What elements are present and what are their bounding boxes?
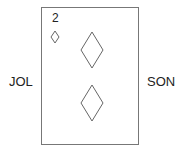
left-label: JOL bbox=[9, 74, 33, 89]
diamond-icon bbox=[81, 85, 103, 121]
card-pips bbox=[42, 8, 140, 146]
small-diamond-icon bbox=[51, 31, 59, 43]
right-label: SON bbox=[147, 74, 175, 89]
diamond-icon bbox=[81, 32, 103, 68]
playing-card: 2 bbox=[41, 7, 139, 145]
